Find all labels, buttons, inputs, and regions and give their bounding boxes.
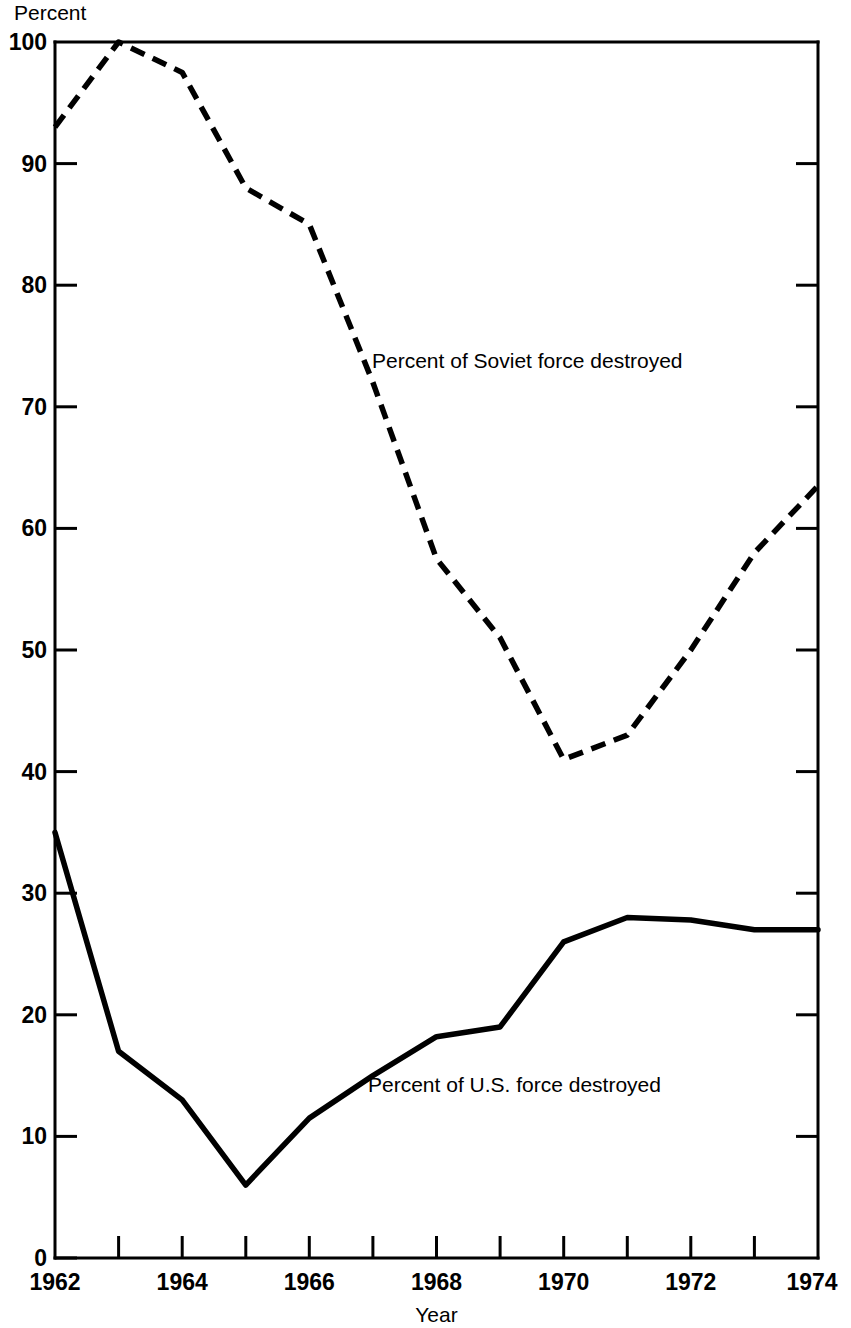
y-tick-label-0: 0 bbox=[34, 1245, 47, 1271]
y-axis-title: Percent bbox=[14, 1, 87, 24]
x-axis-ticks bbox=[119, 1236, 755, 1258]
y-tick-label-90: 90 bbox=[21, 151, 47, 177]
chart-figure: 0 10 20 30 40 50 60 70 80 90 100 Percent bbox=[0, 0, 851, 1328]
y-tick-label-100: 100 bbox=[9, 29, 47, 55]
y-axis-right-ticks bbox=[796, 164, 818, 1137]
annotation-us-series: Percent of U.S. force destroyed bbox=[368, 1073, 661, 1096]
y-tick-label-70: 70 bbox=[21, 394, 47, 420]
series-line-us bbox=[55, 832, 818, 1185]
x-tick-label-1974: 1974 bbox=[786, 1269, 837, 1295]
y-axis-ticks bbox=[55, 164, 77, 1258]
series-line-soviet bbox=[55, 42, 818, 759]
y-tick-label-50: 50 bbox=[21, 637, 47, 663]
x-tick-label-1966: 1966 bbox=[284, 1269, 335, 1295]
y-tick-label-80: 80 bbox=[21, 272, 47, 298]
x-axis-labels: 1962 1964 1966 1968 1970 1972 1974 bbox=[29, 1269, 837, 1295]
x-tick-label-1970: 1970 bbox=[538, 1269, 589, 1295]
x-tick-label-1964: 1964 bbox=[157, 1269, 208, 1295]
x-tick-label-1962: 1962 bbox=[29, 1269, 80, 1295]
y-tick-label-30: 30 bbox=[21, 880, 47, 906]
y-tick-label-60: 60 bbox=[21, 515, 47, 541]
y-axis-labels: 0 10 20 30 40 50 60 70 80 90 100 bbox=[9, 29, 47, 1271]
chart-svg: 0 10 20 30 40 50 60 70 80 90 100 Percent bbox=[0, 0, 851, 1328]
y-tick-label-10: 10 bbox=[21, 1123, 47, 1149]
annotation-soviet-series: Percent of Soviet force destroyed bbox=[372, 349, 683, 372]
x-axis-title: Year bbox=[415, 1303, 457, 1326]
x-tick-label-1968: 1968 bbox=[411, 1269, 462, 1295]
x-tick-label-1972: 1972 bbox=[665, 1269, 716, 1295]
y-tick-label-20: 20 bbox=[21, 1002, 47, 1028]
y-tick-label-40: 40 bbox=[21, 759, 47, 785]
